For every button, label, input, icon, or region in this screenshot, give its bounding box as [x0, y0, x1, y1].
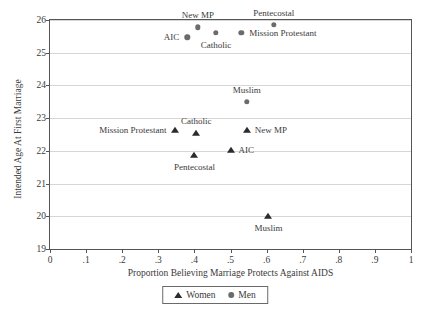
x-tick-mark — [158, 249, 159, 253]
data-point-men[interactable] — [184, 35, 189, 40]
y-tick-mark — [46, 216, 50, 217]
x-tick-label: .6 — [263, 255, 270, 265]
y-tick-label: 22 — [37, 146, 47, 156]
y-tick-mark — [46, 118, 50, 119]
y-tick-label: 26 — [37, 15, 47, 25]
y-tick-mark — [46, 184, 50, 185]
x-tick-mark — [303, 249, 304, 253]
gridline — [50, 118, 411, 119]
gridline — [50, 184, 411, 185]
x-tick-label: .3 — [155, 255, 162, 265]
y-tick-mark — [46, 20, 50, 21]
data-point-label: AIC — [164, 32, 180, 42]
data-point-label: Muslim — [254, 223, 282, 233]
y-tick-mark — [46, 53, 50, 54]
legend-item-women: Women — [174, 290, 215, 300]
x-tick-label: .5 — [227, 255, 234, 265]
data-point-women[interactable] — [171, 126, 179, 132]
x-tick-label: .8 — [335, 255, 342, 265]
x-tick-mark — [194, 249, 195, 253]
data-point-label: AIC — [239, 145, 255, 155]
chart-legend: Women Men — [162, 286, 268, 304]
y-tick-label: 24 — [37, 80, 47, 90]
x-tick-mark — [122, 249, 123, 253]
x-tick-mark — [231, 249, 232, 253]
data-point-label: Pentecostal — [174, 162, 215, 172]
x-tick-label: 0 — [48, 255, 53, 265]
data-point-women[interactable] — [190, 151, 198, 157]
gridline — [50, 85, 411, 86]
gridline — [50, 53, 411, 54]
data-point-women[interactable] — [243, 126, 251, 132]
x-tick-mark — [50, 249, 51, 253]
gridline — [50, 216, 411, 217]
x-tick-label: .9 — [371, 255, 378, 265]
data-point-women[interactable] — [264, 213, 272, 219]
y-axis-title: Intended Age At First Marriage — [13, 59, 23, 219]
y-tick-mark — [46, 151, 50, 152]
x-tick-label: .1 — [83, 255, 90, 265]
data-point-men[interactable] — [239, 30, 244, 35]
data-point-label: Mission Protestant — [99, 125, 166, 135]
data-point-label: Catholic — [181, 116, 212, 126]
data-point-label: Muslim — [233, 85, 261, 95]
y-tick-label: 25 — [37, 48, 47, 58]
x-tick-mark — [411, 249, 412, 253]
data-point-men[interactable] — [271, 22, 276, 27]
data-point-women[interactable] — [192, 130, 200, 136]
x-tick-label: .4 — [191, 255, 198, 265]
data-point-men[interactable] — [213, 30, 218, 35]
data-point-men[interactable] — [195, 24, 200, 29]
data-point-label: Catholic — [201, 40, 232, 50]
y-tick-label: 23 — [37, 113, 47, 123]
x-tick-mark — [339, 249, 340, 253]
legend-item-men: Men — [229, 290, 256, 300]
x-axis-title: Proportion Believing Marriage Protects A… — [49, 268, 412, 278]
x-tick-label: .7 — [299, 255, 306, 265]
y-tick-label: 19 — [37, 244, 47, 254]
data-point-men[interactable] — [244, 99, 249, 104]
legend-label-men: Men — [238, 290, 255, 300]
x-tick-mark — [375, 249, 376, 253]
gridline — [50, 20, 411, 21]
x-tick-label: .2 — [119, 255, 126, 265]
data-point-label: New MP — [182, 10, 214, 20]
data-point-women[interactable] — [227, 147, 235, 153]
triangle-marker-icon — [174, 292, 182, 298]
data-point-label: Pentecostal — [253, 8, 294, 18]
data-point-label: New MP — [255, 125, 287, 135]
scatter-chart: 19202122232425260.1.2.3.4.5.6.7.8.91Miss… — [0, 0, 430, 321]
x-tick-mark — [267, 249, 268, 253]
plot-area: 19202122232425260.1.2.3.4.5.6.7.8.91Miss… — [49, 19, 412, 250]
y-tick-mark — [46, 85, 50, 86]
circle-marker-icon — [229, 292, 235, 298]
data-point-label: Mission Protestant — [249, 28, 316, 38]
x-tick-mark — [86, 249, 87, 253]
x-tick-label: 1 — [409, 255, 414, 265]
y-tick-label: 20 — [37, 211, 47, 221]
y-tick-label: 21 — [37, 179, 47, 189]
legend-label-women: Women — [186, 290, 215, 300]
